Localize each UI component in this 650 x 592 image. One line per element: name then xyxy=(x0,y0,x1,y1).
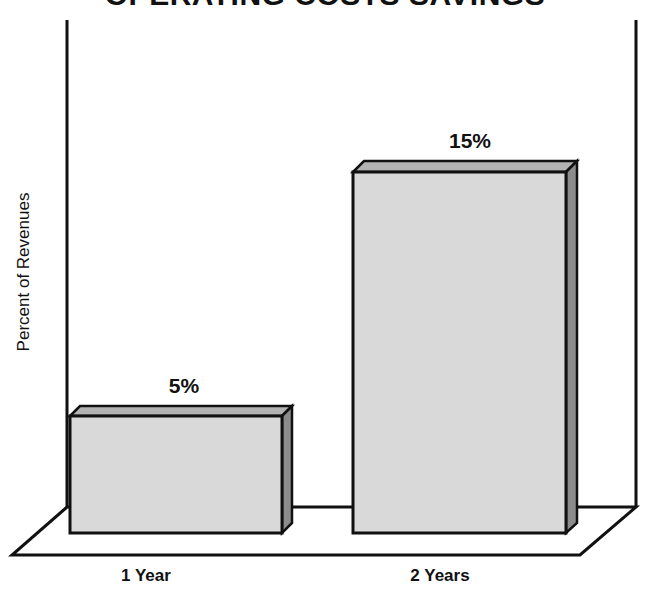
bar-1-year xyxy=(70,406,292,533)
bar-value-label-2: 15% xyxy=(449,129,491,153)
chart-plot-area xyxy=(0,0,650,592)
bar-2-years xyxy=(353,161,577,533)
chart-container: OPERATING COSTS SAVINGS Percent of Reven… xyxy=(0,0,650,592)
x-tick-label-1: 1 Year xyxy=(121,566,171,586)
y-axis-label: Percent of Revenues xyxy=(14,193,34,352)
bar-value-label-1: 5% xyxy=(169,374,199,398)
x-tick-label-2: 2 Years xyxy=(410,566,469,586)
